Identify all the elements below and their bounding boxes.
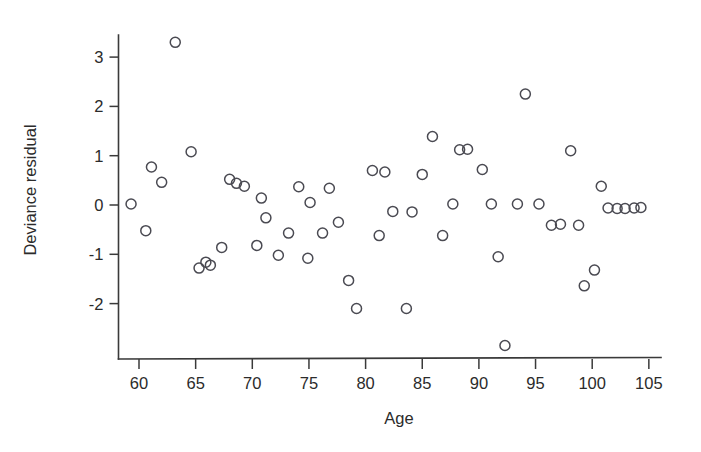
data-point <box>512 199 522 209</box>
data-point <box>448 199 458 209</box>
data-point <box>407 207 417 217</box>
data-point <box>318 228 328 238</box>
y-axis-tick-label: 0 <box>94 196 103 214</box>
data-point <box>126 199 136 209</box>
data-point <box>427 131 437 141</box>
data-point <box>566 146 576 156</box>
data-points-group <box>126 37 646 350</box>
x-axis-tick-label: 80 <box>356 374 374 392</box>
x-axis-tick-label: 60 <box>130 374 148 392</box>
data-point <box>324 183 334 193</box>
data-point <box>367 165 377 175</box>
data-point <box>574 220 584 230</box>
x-axis-tick-label: 90 <box>470 374 488 392</box>
data-point <box>194 263 204 273</box>
data-point <box>417 169 427 179</box>
y-axis-tick-label: 2 <box>94 97 103 115</box>
data-point <box>284 228 294 238</box>
x-axis-title: Age <box>384 409 413 427</box>
y-axis-tick-label: 1 <box>94 147 103 165</box>
data-point <box>170 37 180 47</box>
data-point <box>303 253 313 263</box>
data-point <box>256 193 266 203</box>
data-point <box>344 275 354 285</box>
data-point <box>186 147 196 157</box>
data-point <box>261 213 271 223</box>
data-point <box>636 202 646 212</box>
data-point <box>589 265 599 275</box>
data-point <box>146 162 156 172</box>
x-axis-tick-label: 95 <box>526 374 544 392</box>
data-point <box>388 206 398 216</box>
data-point <box>294 182 304 192</box>
data-point <box>477 165 487 175</box>
y-axis: -2-10123 <box>89 35 119 359</box>
x-axis-tick-label: 105 <box>635 374 663 392</box>
y-axis-tick-label: -1 <box>89 245 104 263</box>
data-point <box>520 89 530 99</box>
x-axis-tick-label: 75 <box>300 374 318 392</box>
y-axis-title: Deviance residual <box>21 124 39 255</box>
data-point <box>401 304 411 314</box>
data-point <box>157 177 167 187</box>
data-point <box>380 167 390 177</box>
data-point <box>500 341 510 351</box>
y-axis-tick-label: -2 <box>89 295 104 313</box>
x-axis: 6065707580859095100105 <box>119 358 663 393</box>
data-point <box>141 226 151 236</box>
data-point <box>252 240 262 250</box>
data-point <box>352 304 362 314</box>
data-point <box>486 199 496 209</box>
data-point <box>333 217 343 227</box>
data-point <box>374 231 384 241</box>
data-point <box>493 252 503 262</box>
plot-canvas: -2-10123 6065707580859095100105 Age Devi… <box>0 0 701 452</box>
y-axis-tick-label: 3 <box>94 48 103 66</box>
data-point <box>534 199 544 209</box>
x-axis-tick-label: 85 <box>413 374 431 392</box>
x-axis-tick-label: 65 <box>186 374 204 392</box>
x-axis-tick-label: 100 <box>578 374 606 392</box>
x-axis-line <box>119 358 662 360</box>
data-point <box>217 242 227 252</box>
x-axis-tick-label: 70 <box>243 374 261 392</box>
scatter-plot-figure: -2-10123 6065707580859095100105 Age Devi… <box>0 0 701 452</box>
data-point <box>438 231 448 241</box>
data-point <box>273 250 283 260</box>
data-point <box>579 281 589 291</box>
data-point <box>596 181 606 191</box>
data-point <box>305 198 315 208</box>
